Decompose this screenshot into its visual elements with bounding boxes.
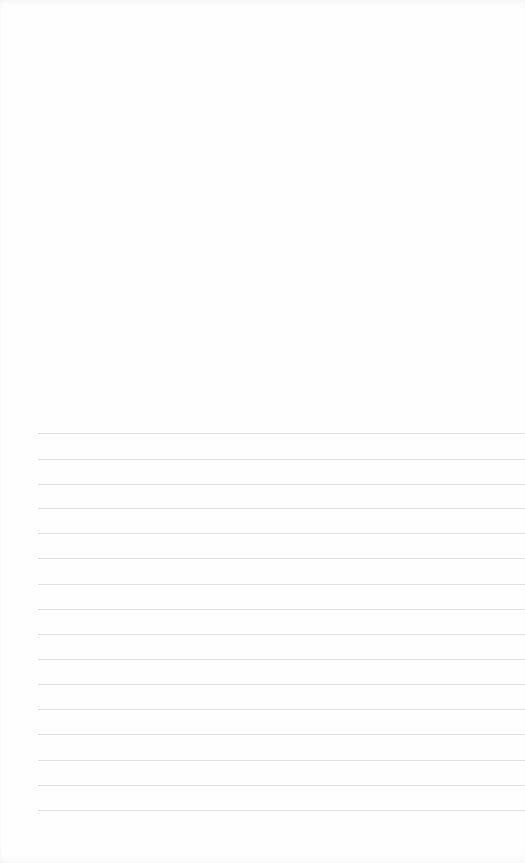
- rule-line: [38, 533, 525, 534]
- rule-line: [38, 459, 525, 460]
- rule-line: [38, 558, 525, 559]
- rule-line: [38, 584, 525, 585]
- rule-line: [38, 734, 525, 735]
- rule-line: [38, 634, 525, 635]
- rule-line: [38, 508, 525, 509]
- rule-line: [38, 760, 525, 761]
- rule-line: [38, 785, 525, 786]
- ruled-lines-area: [0, 0, 525, 863]
- rule-line: [38, 609, 525, 610]
- rule-line: [38, 709, 525, 710]
- rule-line: [38, 684, 525, 685]
- rule-line: [38, 810, 525, 811]
- rule-line: [38, 659, 525, 660]
- rule-line: [38, 484, 525, 485]
- rule-line: [38, 433, 525, 434]
- ruled-paper-page: [0, 0, 525, 863]
